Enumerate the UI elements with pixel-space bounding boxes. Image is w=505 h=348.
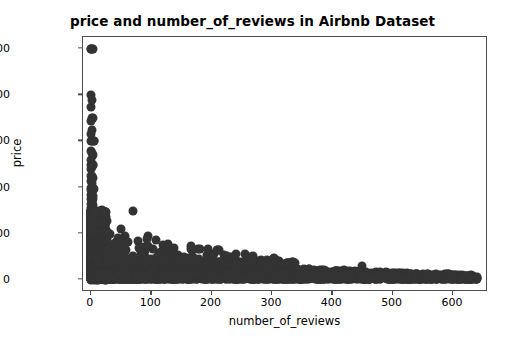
y-tick-label: 2000 [0,226,10,239]
scatter-point [312,268,321,277]
scatter-point [86,45,95,54]
x-tick-mark [392,291,393,295]
scatter-point [137,273,146,282]
x-tick-label: 300 [241,296,301,309]
scatter-point [163,240,172,249]
scatter-point [356,275,365,284]
scatter-point [92,254,101,263]
x-tick-label: 600 [422,296,482,309]
scatter-point [466,274,475,283]
scatter-point [186,241,195,250]
scatter-point [87,116,96,125]
scatter-point [91,208,100,217]
x-tick-label: 200 [181,296,241,309]
scatter-point [232,259,241,268]
scatter-point [214,258,223,267]
scatter-point [393,271,402,280]
scatter-point [122,275,131,284]
y-tick-label: 8000 [0,88,10,101]
scatter-point [134,259,143,268]
scatter-point [447,271,456,280]
scatter-point [258,256,267,265]
scatter-point [173,259,182,268]
scatter-point [184,259,193,268]
scatter-point [121,259,130,268]
x-tick-mark [331,291,332,295]
x-tick-label: 400 [301,296,361,309]
scatter-point [160,273,169,282]
scatter-point [300,266,309,275]
x-tick-mark [452,291,453,295]
scatter-point [286,258,295,267]
x-tick-label: 500 [362,296,422,309]
scatter-point [90,137,99,146]
scatter-point [269,272,278,281]
scatter-point [111,259,120,268]
scatter-point [102,228,111,237]
scatter-point [176,274,185,283]
scatter-point [110,244,119,253]
x-tick-mark [271,291,272,295]
scatter-point [281,273,290,282]
scatter-point [124,238,133,247]
scatter-point [149,244,158,253]
x-tick-label: 100 [120,296,180,309]
scatter-point [206,275,215,284]
scatter-point [91,227,100,236]
scatter-point [87,102,96,111]
y-tick-label: 6000 [0,134,10,147]
x-tick-mark [211,291,212,295]
y-tick-label: 10000 [0,42,10,55]
scatter-point [347,270,356,279]
scatter-point [225,269,234,278]
x-tick-mark [150,291,151,295]
scatter-point [137,249,146,258]
plot-axes-frame [82,36,487,291]
scatter-point [377,269,386,278]
scatter-point [155,257,164,266]
scatter-point [129,206,138,215]
y-tick-label: 4000 [0,180,10,193]
scatter-point [422,271,431,280]
x-axis-label: number_of_reviews [82,314,487,328]
x-tick-label: 0 [60,296,120,309]
y-axis-label: price [10,113,24,193]
scatter-point [196,244,205,253]
scatter-point [433,273,442,282]
chart-title: price and number_of_reviews in Airbnb Da… [0,13,505,29]
scatter-point [147,274,156,283]
scatter-plot-area [83,37,486,290]
scatter-point [90,273,99,282]
scatter-point [411,275,420,284]
scatter-point [249,273,258,282]
x-tick-mark [90,291,91,295]
scatter-point [248,257,257,266]
scatter-point [102,245,111,254]
scatter-point [92,238,101,247]
matplotlib-figure: price and number_of_reviews in Airbnb Da… [0,0,505,348]
scatter-point [114,269,123,278]
scatter-point [101,269,110,278]
y-tick-label: 0 [0,272,10,285]
scatter-point [195,255,204,264]
scatter-point [332,275,341,284]
scatter-point [457,275,466,284]
